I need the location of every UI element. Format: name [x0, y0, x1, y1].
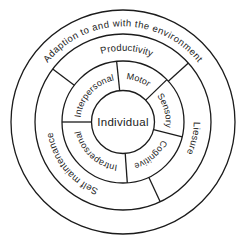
productivity-label-text: Productivity	[99, 42, 155, 59]
inner-ring-divider-bottom	[125, 153, 127, 183]
inner-ring-divider-right	[154, 130, 183, 137]
outer-ring-label: Adaption to and with the environment	[41, 17, 206, 64]
middle-ring-divider-bottom-right	[149, 177, 160, 202]
center-label: Individual	[97, 116, 149, 128]
sensory-label-text: Sensory	[155, 91, 173, 128]
liesure-label: Liesure	[185, 122, 203, 157]
motor-label: Motor	[126, 71, 153, 89]
sensory-label: Sensory	[155, 91, 173, 128]
middle-ring-divider-upper-left	[53, 69, 75, 85]
outer-ring-label-text: Adaption to and with the environment	[41, 17, 206, 64]
diagram-canvas: Adaption to and with the environment Pro…	[0, 0, 246, 241]
inner-ring-divider-top	[117, 61, 120, 90]
liesure-label-text: Liesure	[185, 122, 203, 157]
motor-label-text: Motor	[126, 71, 153, 89]
productivity-label: Productivity	[99, 42, 155, 59]
concentric-model-diagram: Adaption to and with the environment Pro…	[0, 0, 246, 241]
middle-ring-divider-upper-right	[168, 63, 188, 81]
self-maintenance-label: Self maintenance	[44, 132, 100, 197]
self-maintenance-label-text: Self maintenance	[44, 132, 100, 197]
